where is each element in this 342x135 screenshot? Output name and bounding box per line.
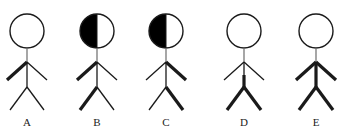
head-icon xyxy=(299,14,333,48)
stick-figure-d xyxy=(224,14,264,110)
stick-figure-e xyxy=(296,14,336,110)
left-arm xyxy=(77,62,97,80)
right-arm xyxy=(27,62,47,80)
head-icon xyxy=(149,14,183,48)
figure-label-b: B xyxy=(87,116,107,129)
left-arm xyxy=(146,62,166,80)
stick-figure-b xyxy=(77,14,117,110)
figure-label-a: A xyxy=(17,116,37,129)
right-arm xyxy=(316,62,336,80)
head-shaded-half xyxy=(80,14,97,48)
figure-label-d: D xyxy=(234,116,254,129)
stick-figures-diagram xyxy=(0,0,342,135)
left-arm xyxy=(296,62,316,80)
right-leg xyxy=(97,87,114,110)
head-icon xyxy=(80,14,114,48)
left-leg xyxy=(227,87,244,110)
head-shaded-half xyxy=(149,14,166,48)
head-icon xyxy=(10,14,44,48)
left-leg xyxy=(149,87,166,110)
right-arm xyxy=(97,62,117,80)
left-leg xyxy=(299,87,316,110)
right-leg xyxy=(316,87,333,110)
left-arm xyxy=(7,62,27,80)
figure-label-c: C xyxy=(156,116,176,129)
left-arm xyxy=(224,62,244,80)
stick-figure-a xyxy=(7,14,47,110)
right-leg xyxy=(244,87,261,110)
left-leg xyxy=(10,87,27,110)
figure-label-e: E xyxy=(306,116,326,129)
right-leg xyxy=(166,87,183,110)
head-icon xyxy=(227,14,261,48)
right-arm xyxy=(244,62,264,80)
stick-figure-c xyxy=(146,14,186,110)
right-arm xyxy=(166,62,186,80)
right-leg xyxy=(27,87,44,110)
left-leg xyxy=(80,87,97,110)
